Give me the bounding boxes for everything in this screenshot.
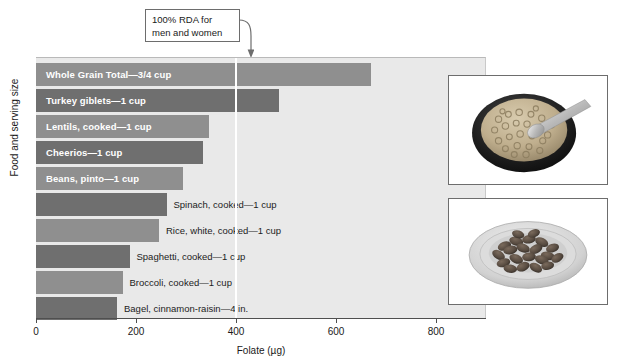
bar-label-4: Beans, pinto—1 cup bbox=[46, 167, 139, 190]
bar-label-0: Whole Grain Total—3/4 cup bbox=[46, 63, 171, 86]
x-tick-4 bbox=[436, 318, 437, 323]
bar-9 bbox=[36, 297, 117, 320]
bar-label-5: Spinach, cooked—1 cup bbox=[174, 193, 277, 216]
bar-label-9: Bagel, cinnamon-raisin—4 in. bbox=[124, 297, 248, 320]
bar-6 bbox=[36, 219, 159, 242]
bar-label-3: Cheerios—1 cup bbox=[46, 141, 122, 164]
bar-label-7: Spaghetti, cooked—1 cup bbox=[137, 245, 246, 268]
rda-callout-line-2: men and women bbox=[152, 26, 234, 39]
cereal-bowl-photo bbox=[448, 75, 608, 185]
bar-5 bbox=[36, 193, 167, 216]
y-axis-title: Food and serving size bbox=[9, 38, 20, 218]
plot-area: Whole Grain Total—3/4 cupTurkey giblets—… bbox=[36, 57, 486, 318]
bars-layer: Whole Grain Total—3/4 cupTurkey giblets—… bbox=[36, 58, 485, 318]
rda-callout-arrow-icon bbox=[238, 14, 254, 60]
x-tick-label-4: 800 bbox=[428, 326, 445, 337]
x-tick-label-3: 600 bbox=[328, 326, 345, 337]
x-tick-1 bbox=[136, 318, 137, 323]
x-tick-label-0: 0 bbox=[33, 326, 39, 337]
rda-callout-box: 100% RDA for men and women bbox=[145, 9, 240, 42]
bar-label-6: Rice, white, cooked—1 cup bbox=[166, 219, 281, 242]
rda-reference-line bbox=[235, 58, 237, 319]
x-tick-0 bbox=[36, 318, 37, 323]
bar-7 bbox=[36, 245, 130, 268]
bar-label-8: Broccoli, cooked—1 cup bbox=[130, 271, 232, 294]
beans-plate-photo bbox=[448, 198, 608, 305]
x-tick-label-2: 400 bbox=[228, 326, 245, 337]
folate-bar-chart: 100% RDA for men and women Whole Grain T… bbox=[0, 0, 623, 364]
rda-callout-line-1: 100% RDA for bbox=[152, 13, 234, 26]
x-axis-line bbox=[36, 318, 486, 319]
x-axis-title: Folate (µg) bbox=[36, 345, 486, 356]
x-tick-3 bbox=[336, 318, 337, 323]
bar-8 bbox=[36, 271, 123, 294]
bar-label-1: Turkey giblets—1 cup bbox=[46, 89, 146, 112]
x-tick-label-1: 200 bbox=[128, 326, 145, 337]
x-tick-2 bbox=[236, 318, 237, 323]
bar-label-2: Lentils, cooked—1 cup bbox=[46, 115, 152, 138]
